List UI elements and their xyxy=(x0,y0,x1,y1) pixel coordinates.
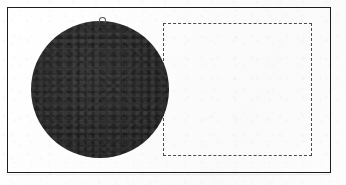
dashed-rectangle xyxy=(163,23,312,156)
figure-canvas xyxy=(0,0,346,185)
filled-ellipse xyxy=(31,21,169,158)
ellipse-stem-icon xyxy=(99,17,106,23)
scan-shadow xyxy=(7,174,331,176)
